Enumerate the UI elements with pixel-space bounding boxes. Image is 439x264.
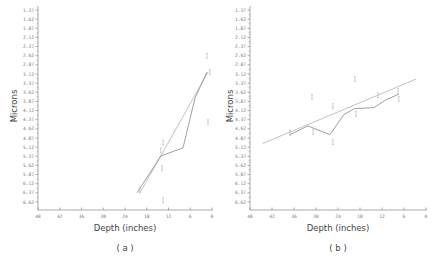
x-tick-label: 36 <box>291 214 297 219</box>
y-tick-label: 3.87 <box>23 99 34 104</box>
y-tick-label: 3.12 <box>23 72 34 77</box>
y-tick-label: 2.87 <box>235 62 246 67</box>
data-line <box>137 72 207 193</box>
chart-panel-b: 1.371.621.872.122.372.622.873.123.373.62… <box>235 6 428 219</box>
regression-line <box>140 72 208 193</box>
xlabel-a: Depth (inches) <box>94 223 157 233</box>
x-tick-label: 18 <box>357 214 363 219</box>
y-tick-label: 2.62 <box>235 53 246 58</box>
regression-line <box>263 79 416 143</box>
xlabel-b: Depth (inches) <box>307 223 370 233</box>
y-tick-label: 1.62 <box>23 17 34 22</box>
y-tick-label: 5.12 <box>235 145 246 150</box>
figure: 1.371.621.872.122.372.622.873.123.373.62… <box>0 0 439 264</box>
x-tick-label: 48 <box>35 214 41 219</box>
y-tick-label: 1.37 <box>23 8 34 13</box>
y-tick-label: 6.62 <box>23 200 34 205</box>
y-tick-label: 6.37 <box>235 190 246 195</box>
y-tick-label: 6.12 <box>235 181 246 186</box>
y-tick-label: 4.87 <box>235 136 246 141</box>
y-tick-label: 4.12 <box>23 108 34 113</box>
y-tick-label: 1.37 <box>235 8 246 13</box>
y-tick-label: 5.62 <box>23 163 34 168</box>
x-tick-label: 42 <box>269 214 275 219</box>
y-tick-label: 1.87 <box>235 26 246 31</box>
y-tick-label: 3.37 <box>235 81 246 86</box>
x-tick-label: 6 <box>189 214 192 219</box>
y-tick-label: 2.37 <box>235 44 246 49</box>
y-tick-label: 6.37 <box>23 190 34 195</box>
x-tick-label: 0 <box>425 214 428 219</box>
x-tick-label: 36 <box>79 214 85 219</box>
x-tick-label: 18 <box>144 214 150 219</box>
y-tick-label: 6.62 <box>235 200 246 205</box>
y-tick-label: 4.87 <box>23 136 34 141</box>
y-tick-label: 1.62 <box>235 17 246 22</box>
y-tick-label: 3.87 <box>235 99 246 104</box>
y-tick-label: 3.37 <box>23 81 34 86</box>
chart-panel-a: 1.371.621.872.122.372.622.873.123.373.62… <box>23 6 214 219</box>
y-tick-label: 5.62 <box>235 163 246 168</box>
y-tick-label: 2.12 <box>23 35 34 40</box>
y-tick-label: 4.12 <box>235 108 246 113</box>
y-tick-label: 4.62 <box>235 126 246 131</box>
x-tick-label: 30 <box>313 214 319 219</box>
y-tick-label: 2.87 <box>23 62 34 67</box>
ylabel-a: Microns <box>9 89 19 122</box>
x-tick-label: 24 <box>335 214 341 219</box>
y-tick-label: 2.62 <box>23 53 34 58</box>
y-tick-label: 4.37 <box>235 117 246 122</box>
y-tick-label: 1.87 <box>23 26 34 31</box>
x-tick-label: 12 <box>379 214 385 219</box>
caption-a: ( a ) <box>116 243 133 253</box>
x-tick-label: 42 <box>57 214 63 219</box>
y-tick-label: 5.87 <box>235 172 246 177</box>
y-tick-label: 4.62 <box>23 126 34 131</box>
y-tick-label: 3.62 <box>235 90 246 95</box>
x-tick-label: 24 <box>122 214 128 219</box>
y-tick-label: 3.62 <box>23 90 34 95</box>
y-tick-label: 2.12 <box>235 35 246 40</box>
y-tick-label: 5.37 <box>235 154 246 159</box>
caption-b: ( b ) <box>329 243 346 253</box>
y-tick-label: 5.37 <box>23 154 34 159</box>
y-tick-label: 2.37 <box>23 44 34 49</box>
x-tick-label: 0 <box>211 214 214 219</box>
y-tick-label: 6.12 <box>23 181 34 186</box>
y-tick-label: 3.12 <box>235 72 246 77</box>
x-tick-label: 6 <box>403 214 406 219</box>
data-line <box>290 94 399 135</box>
y-tick-label: 5.87 <box>23 172 34 177</box>
ylabel-b: Microns <box>225 89 235 122</box>
x-tick-label: 12 <box>166 214 172 219</box>
y-tick-label: 5.12 <box>23 145 34 150</box>
y-tick-label: 4.37 <box>23 117 34 122</box>
x-tick-label: 48 <box>247 214 253 219</box>
x-tick-label: 30 <box>100 214 106 219</box>
